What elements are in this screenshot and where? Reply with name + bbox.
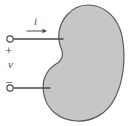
current-arrow-head — [43, 29, 48, 34]
circuit-element-figure: i v + − — [0, 0, 128, 126]
polarity-plus-label: + — [5, 44, 12, 57]
voltage-label: v — [8, 59, 13, 70]
current-label: i — [34, 16, 37, 27]
figure-canvas — [0, 0, 128, 126]
polarity-minus-label: − — [5, 76, 12, 89]
current-direction-arrow — [27, 29, 47, 34]
generic-element-blob — [43, 5, 124, 121]
terminal-positive — [7, 36, 13, 42]
